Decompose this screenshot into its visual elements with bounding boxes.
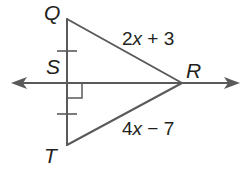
expression-tr-coef: 4: [122, 118, 133, 139]
expression-qr: 2x + 3: [122, 28, 174, 49]
expression-tr-rest: − 7: [142, 118, 174, 139]
expression-qr-coef: 2: [122, 28, 133, 49]
right-angle-marker: [67, 83, 82, 98]
vertex-label-q: Q: [44, 1, 60, 24]
expression-qr-rest: + 3: [142, 28, 174, 49]
vertex-label-t: T: [44, 144, 59, 167]
expression-tr: 4x − 7: [122, 118, 174, 139]
vertex-label-s: S: [46, 55, 60, 78]
triangle-diagram: Q S R T 2x + 3 4x − 7: [0, 0, 243, 177]
vertex-label-r: R: [186, 59, 201, 82]
